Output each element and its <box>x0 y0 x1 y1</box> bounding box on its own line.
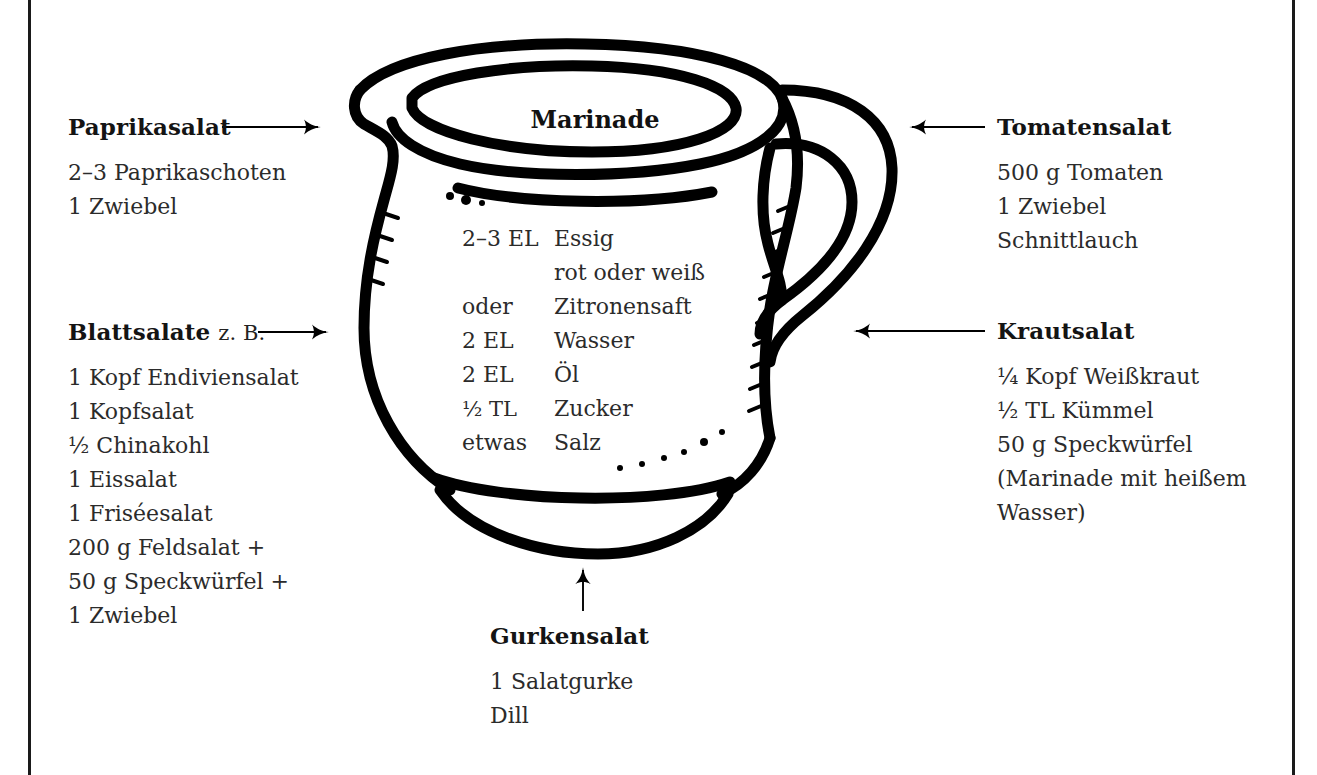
list-item: 50 g Speckwürfel <box>997 428 1267 462</box>
list-item: 1 Kopf Endiviensalat <box>68 361 299 395</box>
list-item: 1 Zwiebel <box>68 599 299 633</box>
ingredient-row: 2–3 EL Essig <box>462 222 705 256</box>
list-item: 50 g Speckwürfel + <box>68 565 299 599</box>
ingredient-row: oder Zitronensaft <box>462 290 705 324</box>
callout-heading: Paprikasalat <box>68 113 286 140</box>
callout-subheading-text: z. B. <box>218 321 265 345</box>
ingredient-qty: 2–3 EL <box>462 222 554 256</box>
ingredient-qty: 2 EL <box>462 324 554 358</box>
callout-gurkensalat: Gurkensalat 1 Salatgurke Dill <box>490 622 649 733</box>
list-item: Schnittlauch <box>997 224 1171 258</box>
callout-tomatensalat: Tomatensalat 500 g Tomaten 1 Zwiebel Sch… <box>997 113 1171 258</box>
page-rule-left <box>28 0 31 775</box>
ingredient-name: Zucker <box>554 392 633 426</box>
callout-heading-text: Krautsalat <box>997 317 1134 344</box>
ingredient-name: rot oder weiß <box>554 256 705 290</box>
list-item: 1 Friséesalat <box>68 497 299 531</box>
callout-heading: Blattsalate z. B. <box>68 318 299 345</box>
ingredient-qty: 2 EL <box>462 358 554 392</box>
callout-heading-text: Tomatensalat <box>997 113 1171 140</box>
list-item: 500 g Tomaten <box>997 156 1171 190</box>
callout-heading-text: Blattsalate <box>68 318 210 345</box>
callout-heading-text: Gurkensalat <box>490 622 649 649</box>
list-item: 200 g Feldsalat + <box>68 531 299 565</box>
ingredient-row: ½ TL Zucker <box>462 392 705 426</box>
ingredient-row: etwas Salz <box>462 426 705 460</box>
ingredient-qty: ½ TL <box>462 392 554 426</box>
ingredient-row: 2 EL Wasser <box>462 324 705 358</box>
callout-heading: Gurkensalat <box>490 622 649 649</box>
marinade-title: Marinade <box>455 105 735 134</box>
callout-item-list: 2–3 Paprikaschoten 1 Zwiebel <box>68 156 286 224</box>
ingredient-name: Öl <box>554 358 579 392</box>
callout-krautsalat: Krautsalat ¼ Kopf Weißkraut ½ TL Kümmel … <box>997 317 1267 530</box>
callout-item-list: 1 Salatgurke Dill <box>490 665 649 733</box>
list-item: ¼ Kopf Weißkraut <box>997 360 1267 394</box>
list-item: 1 Zwiebel <box>997 190 1171 224</box>
ingredient-name: Wasser <box>554 324 634 358</box>
ingredient-name: Zitronensaft <box>554 290 692 324</box>
callout-item-list: 1 Kopf Endiviensalat 1 Kopfsalat ½ China… <box>68 361 299 633</box>
callout-paprikasalat: Paprikasalat 2–3 Paprikaschoten 1 Zwiebe… <box>68 113 286 224</box>
list-item: 1 Salatgurke <box>490 665 649 699</box>
callout-heading: Krautsalat <box>997 317 1267 344</box>
list-item: Dill <box>490 699 649 733</box>
callout-item-list: 500 g Tomaten 1 Zwiebel Schnittlauch <box>997 156 1171 258</box>
callout-heading: Tomatensalat <box>997 113 1171 140</box>
ingredient-name: Salz <box>554 426 601 460</box>
ingredient-name: Essig <box>554 222 614 256</box>
ingredient-qty <box>462 256 554 290</box>
callout-blattsalate: Blattsalate z. B. 1 Kopf Endiviensalat 1… <box>68 318 299 633</box>
list-item: 1 Eissalat <box>68 463 299 497</box>
list-item: ½ TL Kümmel <box>997 394 1267 428</box>
callout-heading-text: Paprikasalat <box>68 113 231 140</box>
list-item: (Marinade mit heißem <box>997 462 1267 496</box>
list-item: 2–3 Paprikaschoten <box>68 156 286 190</box>
marinade-ingredient-list: 2–3 EL Essig rot oder weiß oder Zitronen… <box>462 222 705 460</box>
list-item: 1 Kopfsalat <box>68 395 299 429</box>
diagram-page: Marinade 2–3 EL Essig rot oder weiß oder… <box>0 0 1317 775</box>
list-item: Wasser) <box>997 496 1267 530</box>
ingredient-qty: oder <box>462 290 554 324</box>
ingredient-row: rot oder weiß <box>462 256 705 290</box>
list-item: ½ Chinakohl <box>68 429 299 463</box>
ingredient-row: 2 EL Öl <box>462 358 705 392</box>
ingredient-qty: etwas <box>462 426 554 460</box>
callout-item-list: ¼ Kopf Weißkraut ½ TL Kümmel 50 g Speckw… <box>997 360 1267 530</box>
list-item: 1 Zwiebel <box>68 190 286 224</box>
page-rule-right <box>1292 0 1295 775</box>
